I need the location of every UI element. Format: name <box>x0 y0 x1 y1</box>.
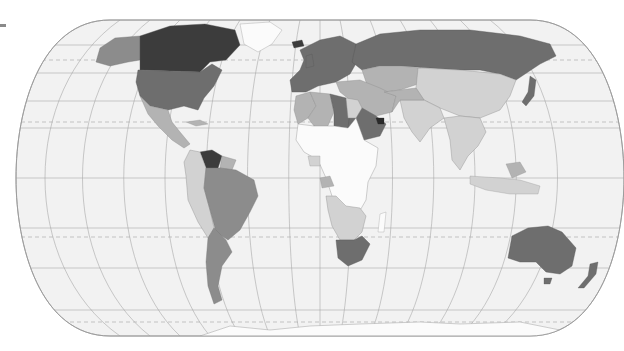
region-west-africa-coast[interactable] <box>308 156 320 166</box>
world-choropleth-map[interactable] <box>0 0 624 351</box>
map-canvas[interactable] <box>0 0 624 351</box>
legend-swatch-fragment <box>0 24 6 27</box>
